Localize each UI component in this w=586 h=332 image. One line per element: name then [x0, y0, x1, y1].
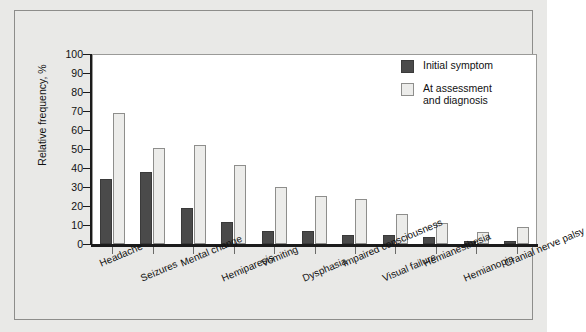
legend-label-initial-symptom: Initial symptom [423, 59, 493, 71]
legend-label-at-assessment-line-1: At assessment [423, 82, 492, 94]
x-label-vomiting: Vomiting [260, 243, 300, 268]
legend-swatch-at-assessment [401, 83, 414, 96]
legend-label-at-assessment: At assessmentand diagnosis [423, 82, 492, 106]
x-label-hemianesthesia: Hemianesthesia [422, 230, 492, 268]
figure-frame: Relative frequency, % 010203040506070809… [14, 10, 533, 320]
legend-swatch-initial-symptom [401, 60, 414, 73]
legend-item-initial-symptom: Initial symptom [401, 59, 536, 73]
x-label-mental-change: Mental change [179, 233, 244, 269]
x-label-seizures: Seizures [139, 258, 179, 283]
legend-item-at-assessment: At assessmentand diagnosis [401, 82, 536, 106]
chart-legend: Initial symptom At assessmentand diagnos… [401, 59, 536, 115]
legend-label-at-assessment-line-2: and diagnosis [423, 94, 488, 106]
x-label-cranial-nerve-palsy: Cranial nerve palsy [503, 225, 586, 269]
x-label-headache: Headache [98, 241, 144, 269]
